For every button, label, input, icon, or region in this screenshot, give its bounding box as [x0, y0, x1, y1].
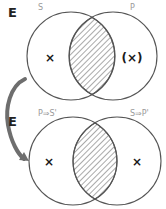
- set-label-left: P⇒S': [38, 109, 57, 118]
- intersection-region-hatched: [73, 123, 117, 199]
- set-label-left: S: [38, 3, 43, 12]
- diagram-top: E S P × (×): [8, 3, 157, 100]
- venn-diagram-canvas: E S P × (×) E P⇒S' S⇒P' × ×: [0, 0, 166, 209]
- existence-mark-left: ×: [44, 155, 54, 169]
- universe-label: E: [8, 5, 17, 20]
- intersection-region-hatched: [69, 18, 114, 95]
- diagram-bottom: E P⇒S' S⇒P' × ×: [8, 109, 161, 205]
- existence-mark-left: ×: [45, 51, 55, 65]
- set-label-right: S⇒P': [130, 109, 149, 118]
- universe-label: E: [8, 114, 17, 129]
- set-label-right: P: [130, 3, 135, 12]
- existence-mark-right: ×: [132, 155, 142, 169]
- existence-mark-right-optional: (×): [121, 51, 142, 65]
